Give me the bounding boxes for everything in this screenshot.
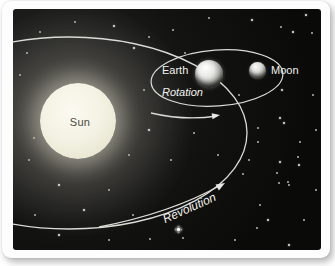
rotation-label: Rotation	[162, 86, 203, 98]
revolution-arrowhead-icon	[216, 180, 227, 190]
moon-sphere	[249, 62, 266, 79]
moon-label: Moon	[271, 64, 299, 76]
photo-card: Sun Earth Moon Rotation Revolution	[2, 1, 330, 258]
rotation-arrow-line	[151, 113, 217, 118]
earth-sphere	[195, 60, 223, 88]
space-background: Sun Earth Moon Rotation Revolution	[13, 9, 321, 250]
sun-label: Sun	[70, 116, 90, 128]
rotation-arrowhead-icon	[212, 112, 221, 119]
earth-label: Earth	[162, 64, 188, 76]
